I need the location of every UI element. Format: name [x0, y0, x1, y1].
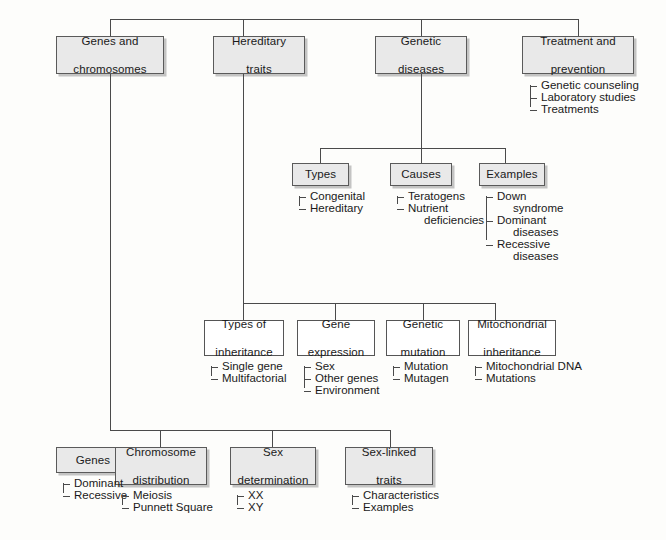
leaf-label: Dominant — [74, 477, 123, 489]
leaf-label: XY — [248, 501, 263, 513]
leaf-tick — [304, 391, 311, 392]
leaf-label: Recessive — [497, 238, 550, 250]
node-label-line1: Hereditary — [229, 34, 289, 48]
node-label-line1: Types of — [212, 317, 275, 331]
node-chromosome-distribution[interactable]: Chromosome distribution — [115, 447, 207, 485]
node-label-line2: mutation — [398, 345, 449, 359]
node-examples[interactable]: Examples — [479, 163, 545, 186]
leaf-label: XX — [248, 489, 263, 501]
node-label-line1: Genetic — [395, 34, 447, 48]
leaf-item: Environment — [304, 384, 380, 396]
leaf-item: Teratogens — [397, 190, 484, 202]
leaf-item: Sex — [304, 360, 380, 372]
node-genetic-diseases[interactable]: Genetic diseases — [375, 36, 467, 74]
node-label-line2: traits — [229, 62, 289, 76]
leaflist-examples: Downsyndrome Dominantdiseases Recessived… — [486, 190, 564, 262]
node-label-line2: prevention — [537, 62, 619, 76]
leaflist-sex-determination: XX XY — [237, 489, 263, 513]
node-types-of-inheritance[interactable]: Types of inheritance — [204, 320, 284, 356]
leaf-label-continued: diseases — [497, 250, 564, 262]
node-sex-linked-traits[interactable]: Sex-linked traits — [345, 447, 433, 485]
leaf-tick — [393, 367, 400, 368]
leaf-label: Characteristics — [363, 489, 439, 501]
leaflist-types-of-inheritance: Single gene Multifactorial — [211, 360, 287, 384]
leaf-tick — [393, 379, 400, 380]
node-label: Types — [302, 167, 339, 181]
node-label: Hereditary traits — [226, 34, 292, 76]
node-label-line1: Gene — [305, 317, 368, 331]
leaf-item: Mutations — [475, 372, 582, 384]
leaf-tick — [530, 86, 537, 87]
node-genes-and-chromosomes[interactable]: Genes and chromosomes — [56, 36, 164, 74]
node-label: Sex-linked traits — [356, 445, 423, 487]
leaf-label: Nutrient — [408, 202, 448, 214]
leaf-item: Congenital — [299, 190, 365, 202]
leaf-tick — [122, 496, 129, 497]
leaf-label: Teratogens — [408, 190, 465, 202]
node-label: Chromosome distribution — [120, 445, 202, 487]
node-label: Genetic mutation — [395, 317, 452, 359]
connector-diseases-down — [421, 74, 422, 148]
leaf-tick — [211, 379, 218, 380]
leaf-tick — [304, 367, 311, 368]
leaf-label: Congenital — [310, 190, 365, 202]
leaf-tick — [237, 508, 244, 509]
leaf-item: Nutrientdeficiencies — [397, 202, 484, 226]
node-label-line1: Sex — [235, 445, 312, 459]
leaf-tick — [352, 496, 359, 497]
node-sex-determination[interactable]: Sex determination — [230, 447, 316, 485]
node-label-line2: expression — [305, 345, 368, 359]
leaf-item: Recessivediseases — [486, 238, 564, 262]
node-hereditary-traits[interactable]: Hereditary traits — [213, 36, 305, 74]
leaf-tick — [486, 245, 493, 246]
node-label: Genetic diseases — [392, 34, 450, 76]
node-label: Treatment and prevention — [534, 34, 622, 76]
node-label-line1: Chromosome — [123, 445, 199, 459]
leaflist-treatment-prevention: Genetic counseling Laboratory studies Tr… — [530, 79, 639, 115]
leaflist-types: Congenital Hereditary — [299, 190, 365, 214]
trunk-horizontal-hereditary-children — [243, 303, 495, 304]
node-genetic-mutation[interactable]: Genetic mutation — [386, 320, 460, 356]
leaf-tick — [530, 110, 537, 111]
leaf-tick — [299, 209, 306, 210]
node-label-line1: Mitochondrial — [474, 317, 550, 331]
leaflist-sex-linked-traits: Characteristics Examples — [352, 489, 439, 513]
node-label-line2: determination — [235, 473, 312, 487]
node-label-line2: inheritance — [474, 345, 550, 359]
leaf-item: Mitochondrial DNA — [475, 360, 582, 372]
leaf-tick — [530, 98, 537, 99]
connector-genes-down — [110, 74, 111, 430]
leaf-label: Punnett Square — [133, 501, 213, 513]
node-types[interactable]: Types — [292, 163, 349, 186]
leaf-label-continued: deficiencies — [408, 214, 484, 226]
node-gene-expression[interactable]: Gene expression — [297, 320, 375, 356]
leaf-label: Multifactorial — [222, 372, 287, 384]
leaf-label: Mutations — [486, 372, 536, 384]
node-label-line2: distribution — [123, 473, 199, 487]
leaf-tick — [122, 508, 129, 509]
leaflist-causes: Teratogens Nutrientdeficiencies — [397, 190, 484, 226]
leaf-item: Examples — [352, 501, 439, 513]
node-label: Types of inheritance — [209, 317, 278, 359]
leaflist-genes: Dominant Recessive — [63, 477, 127, 501]
leaf-item: Dominantdiseases — [486, 214, 564, 238]
leaflist-gene-expression: Sex Other genes Environment — [304, 360, 380, 396]
leaf-label: Dominant — [497, 214, 546, 226]
leaf-item: Punnett Square — [122, 501, 213, 513]
node-label-line2: inheritance — [212, 345, 275, 359]
leaf-tick — [352, 508, 359, 509]
leaf-tick — [237, 496, 244, 497]
leaf-tick — [299, 197, 306, 198]
node-causes[interactable]: Causes — [390, 163, 452, 186]
leaf-label-continued: diseases — [497, 226, 564, 238]
leaf-label: Hereditary — [310, 202, 363, 214]
leaf-label: Treatments — [541, 103, 599, 115]
leaf-item: XY — [237, 501, 263, 513]
leaf-label: Mutation — [404, 360, 448, 372]
node-treatment-and-prevention[interactable]: Treatment and prevention — [522, 36, 634, 74]
trunk-horizontal-disease-children — [320, 148, 505, 149]
node-label-line1: Genetic — [398, 317, 449, 331]
node-mitochondrial-inheritance[interactable]: Mitochondrial inheritance — [468, 320, 556, 356]
connector-hereditary-down — [243, 74, 244, 320]
leaf-tick — [486, 221, 493, 222]
